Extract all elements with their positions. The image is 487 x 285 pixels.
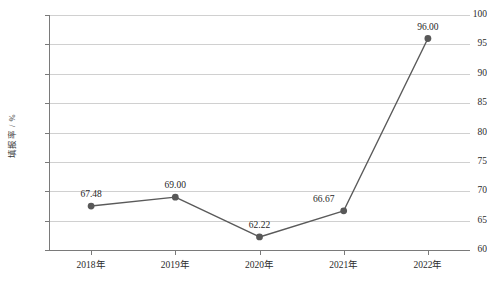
x-tick-mark [175,251,176,255]
y-tick-mark [45,162,49,163]
data-series-line [0,0,487,285]
y-tick-mark [45,74,49,75]
data-point-label: 96.00 [417,23,438,33]
y-tick-mark [45,44,49,45]
y-tick-label: 65 [461,216,487,226]
x-tick-label: 2022年 [413,261,442,271]
y-tick-mark [45,15,49,16]
data-point-marker [425,35,432,42]
data-point-label: 67.48 [80,190,101,200]
x-tick-mark [428,251,429,255]
x-tick-label: 2021年 [329,261,358,271]
y-tick-mark [45,103,49,104]
x-tick-label: 2019年 [161,261,190,271]
data-point-marker [340,207,347,214]
y-tick-label: 70 [461,186,487,196]
line-chart: 填报率 / % 60657075808590951002018年2019年202… [0,0,487,285]
data-point-label: 62.22 [249,221,270,231]
y-tick-mark [45,133,49,134]
data-point-marker [88,203,95,210]
y-tick-label: 100 [461,10,487,20]
x-tick-label: 2018年 [77,261,106,271]
y-tick-label: 80 [461,128,487,138]
y-tick-label: 95 [461,39,487,49]
x-tick-mark [91,251,92,255]
data-point-marker [256,234,263,241]
y-tick-mark [45,191,49,192]
data-point-label: 69.00 [165,181,186,191]
y-tick-label: 60 [461,245,487,255]
y-tick-label: 85 [461,98,487,108]
data-point-label: 66.67 [313,195,334,205]
x-tick-mark [344,251,345,255]
x-tick-label: 2020年 [245,261,274,271]
y-tick-mark [45,221,49,222]
y-tick-label: 75 [461,157,487,167]
data-point-marker [172,194,179,201]
y-tick-label: 90 [461,69,487,79]
x-tick-mark [260,251,261,255]
y-tick-mark [45,250,49,251]
